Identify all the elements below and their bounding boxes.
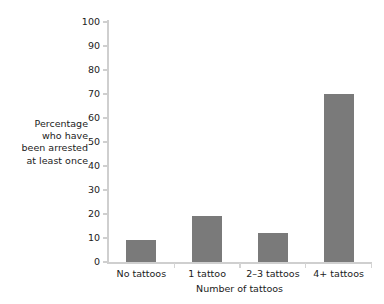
- y-axis-tick-label: 30: [72, 185, 100, 195]
- y-axis-tick-label: 90: [72, 41, 100, 51]
- y-axis-tick: [103, 165, 108, 166]
- y-axis-tick-label: 70: [72, 89, 100, 99]
- y-axis-tick-label: 0: [72, 257, 100, 267]
- x-axis-category-label: No tattoos: [109, 268, 175, 280]
- bar: [258, 233, 288, 262]
- y-axis-tick: [103, 21, 108, 22]
- y-axis-tick: [103, 45, 108, 46]
- x-axis-category-label: 2–3 tattoos: [240, 268, 306, 280]
- y-axis-tick: [103, 69, 108, 70]
- x-axis-category-label: 1 tattoo: [174, 268, 240, 280]
- y-axis-tick: [103, 189, 108, 190]
- y-axis-tick-label: 60: [72, 113, 100, 123]
- x-axis-category-label: 4+ tattoos: [306, 268, 372, 280]
- y-axis-tick-label: 80: [72, 65, 100, 75]
- y-axis-tick: [103, 117, 108, 118]
- y-axis-tick-label: 10: [72, 233, 100, 243]
- y-axis-tick: [103, 141, 108, 142]
- x-axis-title: Number of tattoos: [107, 283, 372, 294]
- y-axis-tick: [103, 93, 108, 94]
- bar: [192, 216, 222, 262]
- y-axis-tick: [103, 213, 108, 214]
- y-axis-tick-label: 20: [72, 209, 100, 219]
- bar: [324, 94, 354, 262]
- y-axis-tick-label: 100: [72, 17, 100, 27]
- bar-chart: Percentage who have been arrested at lea…: [0, 0, 384, 304]
- y-axis-tick-label: 50: [72, 137, 100, 147]
- y-axis-tick-label: 40: [72, 161, 100, 171]
- bar: [126, 240, 156, 262]
- y-axis-tick: [103, 237, 108, 238]
- y-axis-tick: [103, 261, 108, 262]
